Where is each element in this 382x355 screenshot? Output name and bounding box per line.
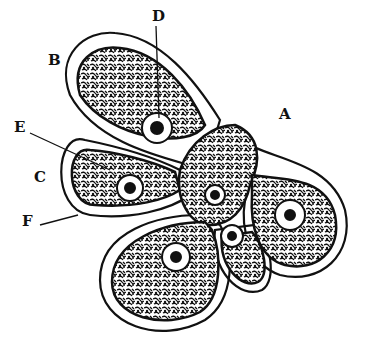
illustration: A B C D E F: [0, 0, 382, 355]
central-mass: [179, 125, 257, 225]
label-f: F: [22, 214, 33, 229]
label-b: B: [48, 53, 61, 68]
label-d: D: [152, 9, 165, 24]
label-a: A: [279, 107, 291, 122]
lobe-lower-left: [112, 222, 218, 320]
label-e: E: [14, 120, 25, 135]
label-c: C: [34, 170, 46, 185]
